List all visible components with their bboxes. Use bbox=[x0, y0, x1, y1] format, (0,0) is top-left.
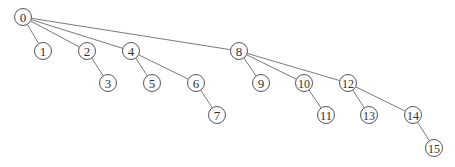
tree-node-9: 9 bbox=[253, 75, 270, 92]
node-label: 15 bbox=[428, 141, 440, 156]
edge-0-1 bbox=[27, 24, 38, 43]
tree-node-1: 1 bbox=[35, 43, 52, 60]
tree-node-11: 11 bbox=[318, 107, 335, 124]
node-label: 12 bbox=[342, 76, 354, 91]
tree-node-0: 0 bbox=[15, 9, 32, 26]
node-label: 4 bbox=[128, 44, 135, 59]
edge-6-7 bbox=[201, 90, 213, 108]
node-label: 14 bbox=[407, 108, 419, 123]
edge-2-3 bbox=[92, 58, 104, 76]
edge-4-6 bbox=[139, 55, 189, 79]
edge-10-11 bbox=[309, 90, 321, 108]
tree-node-3: 3 bbox=[100, 75, 117, 92]
edge-8-9 bbox=[244, 58, 256, 76]
edge-14-15 bbox=[418, 122, 430, 141]
edge-12-13 bbox=[353, 90, 365, 108]
node-label: 1 bbox=[40, 44, 47, 59]
tree-node-6: 6 bbox=[188, 75, 205, 92]
node-label: 0 bbox=[20, 10, 27, 25]
tree-node-5: 5 bbox=[144, 75, 161, 92]
tree-node-12: 12 bbox=[340, 75, 357, 92]
edge-4-5 bbox=[136, 58, 148, 76]
tree-node-14: 14 bbox=[405, 107, 422, 124]
tree-nodes: 0123456789101112131415 bbox=[15, 9, 443, 157]
binomial-tree-diagram: 0123456789101112131415 bbox=[0, 0, 455, 167]
node-label: 2 bbox=[84, 44, 91, 59]
tree-node-8: 8 bbox=[231, 43, 248, 60]
node-label: 3 bbox=[105, 76, 112, 91]
tree-node-2: 2 bbox=[79, 43, 96, 60]
node-label: 10 bbox=[298, 76, 310, 91]
node-label: 7 bbox=[214, 108, 221, 123]
node-label: 13 bbox=[363, 108, 375, 123]
tree-node-15: 15 bbox=[426, 140, 443, 157]
tree-node-7: 7 bbox=[209, 107, 226, 124]
node-label: 9 bbox=[258, 76, 265, 91]
tree-node-10: 10 bbox=[296, 75, 313, 92]
edge-8-10 bbox=[247, 55, 297, 79]
tree-node-13: 13 bbox=[361, 107, 378, 124]
tree-node-4: 4 bbox=[123, 43, 140, 60]
node-label: 8 bbox=[236, 44, 243, 59]
node-label: 11 bbox=[320, 108, 332, 123]
node-label: 5 bbox=[149, 76, 156, 91]
node-label: 6 bbox=[193, 76, 200, 91]
